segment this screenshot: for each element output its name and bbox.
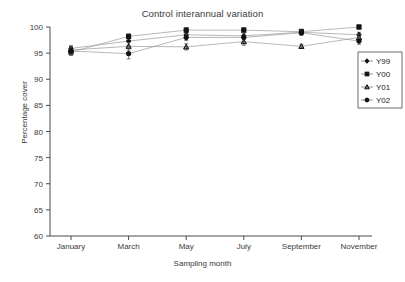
y-tick-label: 90 bbox=[34, 75, 43, 84]
x-tick-label: May bbox=[179, 242, 194, 251]
legend-marker-Y00 bbox=[365, 72, 369, 76]
y-tick-label: 100 bbox=[30, 23, 44, 32]
data-point-Y02 bbox=[242, 35, 246, 39]
legend-label-Y01: Y01 bbox=[376, 83, 391, 92]
data-point-Y02 bbox=[184, 35, 188, 39]
series-group bbox=[68, 25, 361, 59]
data-point-Y02 bbox=[69, 49, 73, 53]
y-tick-label: 85 bbox=[34, 101, 43, 110]
data-point-Y00 bbox=[127, 34, 131, 38]
y-tick-label: 80 bbox=[34, 128, 43, 137]
legend-marker-Y02 bbox=[365, 98, 369, 102]
chart-legend: Y99Y00Y01Y02 bbox=[358, 52, 402, 108]
y-tick-label: 75 bbox=[34, 154, 43, 163]
x-tick-label: September bbox=[282, 242, 321, 251]
x-axis-ticks: JanuaryMarchMayJulySeptemberNovember bbox=[57, 236, 378, 251]
series-line-Y00 bbox=[71, 27, 359, 52]
data-point-Y01 bbox=[184, 44, 189, 49]
y-tick-label: 60 bbox=[34, 232, 43, 241]
data-point-Y00 bbox=[242, 28, 246, 32]
x-tick-label: January bbox=[57, 242, 85, 251]
x-tick-label: March bbox=[117, 242, 139, 251]
data-point-Y01 bbox=[126, 44, 131, 49]
chart-figure: Control interannual variation Percentage… bbox=[0, 0, 405, 282]
series-line-Y01 bbox=[71, 37, 359, 50]
y-tick-label: 65 bbox=[34, 206, 43, 215]
x-tick-label: November bbox=[341, 242, 378, 251]
data-point-Y02 bbox=[299, 31, 303, 35]
data-point-Y00 bbox=[357, 25, 361, 29]
legend-label-Y99: Y99 bbox=[376, 57, 391, 66]
data-point-Y00 bbox=[184, 28, 188, 32]
legend-label-Y00: Y00 bbox=[376, 70, 391, 79]
x-tick-label: July bbox=[237, 242, 251, 251]
y-axis-ticks: 6065707580859095100 bbox=[30, 23, 50, 241]
y-tick-label: 95 bbox=[34, 49, 43, 58]
data-point-Y02 bbox=[357, 39, 361, 43]
legend-label-Y02: Y02 bbox=[376, 96, 391, 105]
data-point-Y02 bbox=[126, 51, 130, 55]
plot-area: 6065707580859095100 JanuaryMarchMayJulyS… bbox=[0, 0, 405, 282]
y-tick-label: 70 bbox=[34, 180, 43, 189]
